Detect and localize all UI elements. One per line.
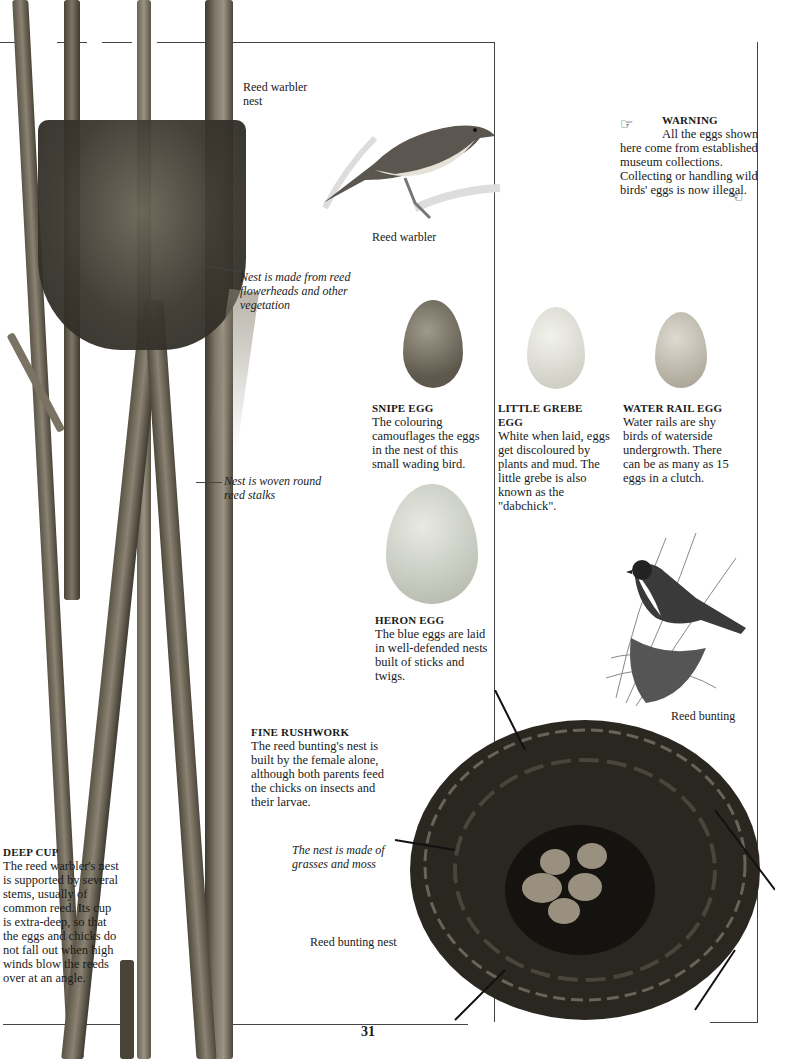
heron-egg-photo — [386, 484, 478, 604]
fine-rushwork-caption: FINE RUSHWORK The reed bunting's nest is… — [251, 725, 396, 809]
reed-leaf — [120, 960, 134, 1059]
pointing-hand-left-icon: ☜ — [730, 188, 743, 206]
water-rail-egg-photo — [655, 312, 707, 388]
warning-body: All the eggs shown here come from establ… — [620, 127, 768, 197]
fine-rushwork-title: FINE RUSHWORK — [251, 725, 396, 739]
snipe-egg-text: The colouring camouflages the eggs in th… — [372, 415, 480, 471]
little-grebe-egg-caption: LITTLE GREBE EGG White when laid, eggs g… — [498, 401, 610, 513]
top-rule-right — [240, 42, 494, 43]
top-rule-left-3 — [102, 42, 132, 43]
warning-box: ☞ WARNING All the eggs shown here come f… — [620, 113, 770, 197]
page-number: 31 — [361, 1024, 375, 1040]
water-rail-egg-caption: WATER RAIL EGG Water rails are shy birds… — [623, 401, 735, 485]
reed-bunting-nest-photo — [395, 690, 775, 1030]
fine-rushwork-text: The reed bunting's nest is built by the … — [251, 739, 384, 809]
deep-cup-title: DEEP CUP — [3, 845, 121, 859]
little-grebe-egg-title: LITTLE GREBE EGG — [498, 401, 610, 429]
heron-egg-caption: HERON EGG The blue eggs are laid in well… — [375, 613, 497, 683]
warning-title: WARNING — [662, 113, 770, 127]
reed-warbler-nest-photo — [38, 120, 246, 350]
reed-bunting-nest-label: Reed bunting nest — [310, 935, 397, 949]
pointing-hand-right-icon: ☞ — [620, 115, 633, 133]
snipe-egg-caption: SNIPE EGG The colouring camouflages the … — [372, 401, 487, 471]
reed-warbler-label: Reed warbler — [372, 230, 436, 244]
water-rail-egg-text: Water rails are shy birds of waterside u… — [623, 415, 729, 485]
snipe-egg-title: SNIPE EGG — [372, 401, 487, 415]
reed-warbler-nest-label: Reed warbler nest — [243, 80, 323, 108]
reed-bunting-illustration — [606, 528, 756, 708]
heron-egg-title: HERON EGG — [375, 613, 497, 627]
reed-bunting-nest-annotation: The nest is made of grasses and moss — [292, 843, 407, 871]
nest-annotation-woven: Nest is woven round reed stalks — [224, 474, 334, 502]
deep-cup-text: The reed warbler's nest is supported by … — [3, 859, 119, 985]
little-grebe-egg-text: White when laid, eggs get discoloured by… — [498, 429, 610, 513]
little-grebe-egg-photo — [527, 307, 585, 389]
nest-annotation-material: Nest is made from reed flowerheads and o… — [240, 270, 355, 312]
bottom-rule-left — [3, 1024, 121, 1025]
leader-line — [196, 482, 222, 483]
deep-cup-caption: DEEP CUP The reed warbler's nest is supp… — [3, 845, 121, 985]
snipe-egg-photo — [403, 300, 463, 388]
reed-warbler-illustration — [305, 108, 505, 223]
bird-icon — [606, 528, 756, 708]
bird-icon — [305, 108, 505, 223]
water-rail-egg-title: WATER RAIL EGG — [623, 401, 735, 415]
heron-egg-text: The blue eggs are laid in well-defended … — [375, 627, 487, 683]
